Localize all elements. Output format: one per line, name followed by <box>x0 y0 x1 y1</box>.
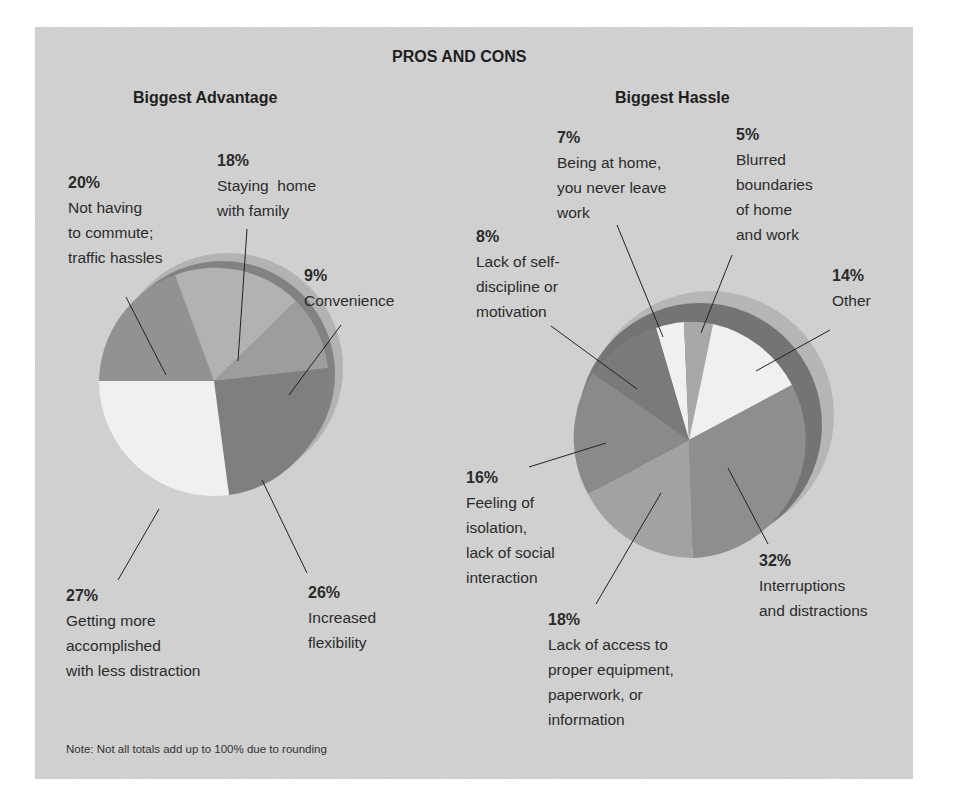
advantage-heading: Biggest Advantage <box>133 89 277 107</box>
main-title: PROS AND CONS <box>392 48 527 66</box>
footnote: Note: Not all totals add up to 100% due … <box>66 743 327 755</box>
label-equipment: 18% Lack of access to proper equipment, … <box>548 607 674 732</box>
label-convenience: 9% Convenience <box>304 263 394 313</box>
label-commute: 20% Not having to commute; traffic hassl… <box>68 170 162 270</box>
label-interruptions: 32% Interruptions and distractions <box>759 548 868 623</box>
hassle-heading: Biggest Hassle <box>615 89 730 107</box>
slice-flexibility <box>214 368 329 495</box>
label-other: 14% Other <box>832 263 871 313</box>
slice-accomplished <box>99 381 229 496</box>
label-never-leave: 7% Being at home, you never leave work <box>557 125 666 225</box>
label-self-discipline: 8% Lack of self- discipline or motivatio… <box>476 224 560 324</box>
label-family: 18% Staying home with family <box>217 148 316 223</box>
label-isolation: 16% Feeling of isolation, lack of social… <box>466 465 555 590</box>
label-flexibility: 26% Increased flexibility <box>308 580 376 655</box>
label-blurred: 5% Blurred boundaries of home and work <box>736 122 813 247</box>
label-accomplished: 27% Getting more accomplished with less … <box>66 583 200 683</box>
